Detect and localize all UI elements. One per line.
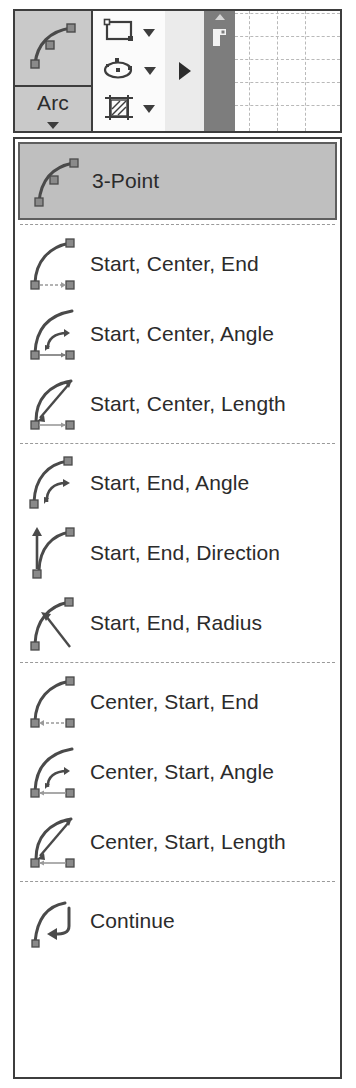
arc-split-button[interactable]: Arc	[15, 11, 93, 131]
corner-marker-icon	[211, 27, 229, 51]
arc-start-end-radius-icon	[22, 592, 84, 654]
ellipse-tool-row[interactable]	[102, 53, 156, 89]
chevron-down-icon[interactable]	[47, 122, 59, 129]
rectangle-tool-row[interactable]	[103, 15, 155, 51]
menu-item-label: Start, End, Angle	[84, 471, 249, 495]
grid-line	[305, 11, 306, 131]
menu-item-start-end-angle[interactable]: Start, End, Angle	[18, 448, 337, 518]
menu-separator	[20, 662, 335, 663]
menu-item-label: Start, End, Direction	[84, 541, 280, 565]
grid-line	[235, 82, 340, 83]
arc-3point-icon	[24, 17, 82, 79]
grid-line	[235, 59, 340, 60]
grid-line	[235, 36, 340, 37]
grid-line	[235, 105, 340, 106]
arc-button-icon-area[interactable]	[15, 11, 91, 87]
grid-line	[277, 11, 278, 131]
arc-3point-icon	[24, 150, 86, 212]
arc-button-label-area[interactable]: Arc	[15, 87, 91, 131]
triangle-up-icon	[215, 14, 225, 20]
chevron-down-icon[interactable]	[143, 105, 155, 113]
grid-line	[235, 13, 340, 14]
menu-separator	[20, 443, 335, 444]
ribbon-tool-icon-column	[93, 11, 165, 131]
panel-expand-button[interactable]	[165, 11, 204, 131]
menu-item-label: Center, Start, Angle	[84, 760, 274, 784]
menu-item-label: Start, Center, Length	[84, 392, 286, 416]
menu-item-label: Start, Center, Angle	[84, 322, 274, 346]
menu-item-3-point[interactable]: 3-Point	[18, 142, 337, 220]
arc-continue-icon	[22, 890, 84, 952]
menu-item-center-start-length[interactable]: Center, Start, Length	[18, 807, 337, 877]
arc-center-start-end-icon	[22, 671, 84, 733]
menu-separator	[20, 224, 335, 225]
expand-right-arrow-icon	[179, 62, 191, 80]
arc-button-label: Arc	[37, 92, 69, 113]
arc-center-start-length-icon	[22, 811, 84, 873]
menu-item-center-start-angle[interactable]: Center, Start, Angle	[18, 737, 337, 807]
menu-item-label: Start, Center, End	[84, 252, 259, 276]
arc-start-center-end-icon	[22, 233, 84, 295]
rectangle-icon[interactable]	[103, 18, 135, 48]
chevron-down-icon[interactable]	[144, 67, 156, 75]
menu-item-label: Continue	[84, 909, 175, 933]
arc-start-end-angle-icon	[22, 452, 84, 514]
menu-item-label: 3-Point	[86, 169, 159, 193]
grid-line	[249, 11, 250, 131]
ribbon-panel: Arc	[13, 9, 342, 133]
drawing-grid-area	[235, 11, 340, 131]
menu-item-start-center-length[interactable]: Start, Center, Length	[18, 369, 337, 439]
menu-item-continue[interactable]: Continue	[18, 886, 337, 956]
menu-item-start-center-end[interactable]: Start, Center, End	[18, 229, 337, 299]
arc-center-start-angle-icon	[22, 741, 84, 803]
menu-item-label: Center, Start, Length	[84, 830, 286, 854]
arc-start-end-direction-icon	[22, 522, 84, 584]
arc-start-center-angle-icon	[22, 303, 84, 365]
ellipse-icon[interactable]	[102, 56, 136, 86]
menu-item-start-end-radius[interactable]: Start, End, Radius	[18, 588, 337, 658]
arc-start-center-length-icon	[22, 373, 84, 435]
menu-item-center-start-end[interactable]: Center, Start, End	[18, 667, 337, 737]
menu-item-start-end-direction[interactable]: Start, End, Direction	[18, 518, 337, 588]
menu-item-label: Center, Start, End	[84, 690, 259, 714]
menu-separator	[20, 881, 335, 882]
menu-item-start-center-angle[interactable]: Start, Center, Angle	[18, 299, 337, 369]
arc-dropdown-menu: 3-Point Start, Center, End	[13, 137, 342, 1079]
hatch-icon[interactable]	[103, 93, 135, 125]
menu-item-label: Start, End, Radius	[84, 611, 262, 635]
chevron-down-icon[interactable]	[143, 29, 155, 37]
vertical-divider-strip[interactable]	[204, 11, 235, 131]
hatch-tool-row[interactable]	[103, 91, 155, 127]
